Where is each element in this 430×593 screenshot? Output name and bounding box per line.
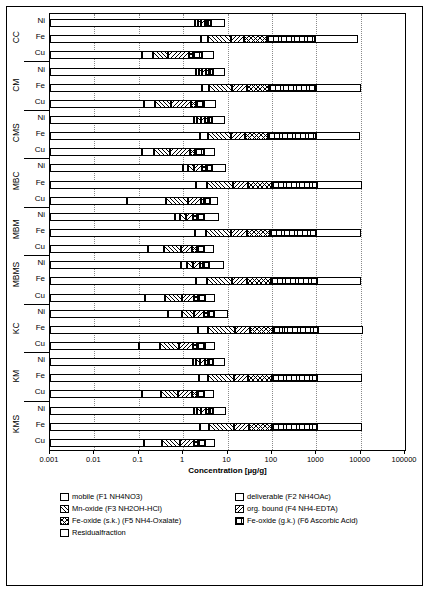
legend-row: Residualfraction: [60, 528, 380, 537]
bar-segment: [50, 51, 142, 59]
bar-segment: [269, 84, 316, 92]
bar-segment: [317, 423, 361, 431]
bar-segment: [207, 277, 233, 285]
bar-segment: [317, 374, 361, 382]
bar-segment: [214, 310, 228, 318]
bar-segment: [160, 342, 179, 350]
category-label: Ni: [37, 65, 45, 74]
bar-segment: [164, 245, 180, 253]
bar-segment: [50, 35, 201, 43]
legend-swatch-fesk: [60, 517, 69, 525]
bar-segment: [317, 181, 361, 189]
bar-segment: [316, 229, 361, 237]
category-label: Ni: [37, 307, 45, 316]
bar-segment: [144, 100, 155, 108]
legend-item: Mn-oxide (F3 NH2OH-HCl): [60, 504, 235, 513]
bar-segment: [50, 261, 181, 269]
bar-segment: [50, 213, 175, 221]
category-label: Fe: [36, 420, 45, 429]
bar-segment: [50, 310, 168, 318]
bar-segment: [209, 423, 234, 431]
x-tick: [182, 451, 183, 454]
bar-segment: [197, 213, 204, 221]
bar-segment: [273, 326, 318, 334]
bar-segment: [188, 197, 201, 205]
x-tick: [271, 451, 272, 454]
group-label: MBM: [8, 207, 24, 255]
group-separator: [24, 255, 49, 256]
bar-segment: [193, 51, 202, 59]
bar-segment: [198, 439, 205, 447]
bar-segment: [204, 100, 216, 108]
grid-line: [405, 14, 406, 450]
bar-segment: [210, 197, 218, 205]
bar-segment: [50, 229, 195, 237]
category-label: Ni: [37, 355, 45, 364]
bar-segment: [181, 245, 192, 253]
category-label: Cu: [35, 436, 45, 445]
legend-swatch-org: [235, 505, 244, 513]
bar-segment: [202, 51, 213, 59]
bar-segment: [194, 164, 201, 172]
category-label: Fe: [36, 274, 45, 283]
group-label-column: CCCMCMSMBCMBMMBMSKCKMKMS: [8, 13, 24, 451]
group-separator: [24, 352, 49, 353]
legend-item: Residualfraction: [60, 528, 235, 537]
group-label: CM: [8, 61, 24, 109]
bar-segment: [212, 116, 225, 124]
category-label: Cu: [35, 194, 45, 203]
bar-segment: [231, 229, 246, 237]
legend-swatch-resid: [60, 529, 69, 537]
category-label: Cu: [35, 48, 45, 57]
bar-segment: [208, 326, 235, 334]
bar-segment: [50, 245, 148, 253]
x-tick-label: 0.001: [40, 455, 59, 464]
category-label: Fe: [36, 178, 45, 187]
bar-segment: [170, 148, 191, 156]
bar-segment: [166, 197, 189, 205]
bar-segment: [178, 390, 192, 398]
grid-line: [361, 14, 362, 450]
bar-segment: [50, 439, 144, 447]
bar-segment: [127, 197, 165, 205]
group-separator: [24, 158, 49, 159]
group-separator: [24, 304, 49, 305]
legend-swatch-fegk: [235, 517, 244, 525]
x-tick-label: 100: [265, 455, 278, 464]
bar-segment: [205, 439, 215, 447]
bar-segment: [247, 277, 271, 285]
bar-segment: [186, 213, 193, 221]
category-label: Fe: [36, 81, 45, 90]
category-label: Cu: [35, 339, 45, 348]
bar-segment: [316, 132, 360, 140]
legend-label: Fe-oxide (s.k.) (F5 NH4-Oxalate): [72, 516, 181, 525]
bar-segment: [50, 277, 196, 285]
bar-segment: [196, 277, 206, 285]
bar-segment: [205, 342, 215, 350]
legend-item: Fe-oxide (g.k.) (F6 Ascorbic Acid): [235, 516, 358, 525]
bar-segment: [161, 390, 178, 398]
category-label: Fe: [36, 323, 45, 332]
bar-segment: [268, 132, 315, 140]
bar-segment: [209, 261, 224, 269]
x-tick: [93, 451, 94, 454]
bar-segment: [196, 181, 207, 189]
bar-segment: [211, 19, 225, 27]
bar-segment: [50, 407, 194, 415]
bar-segment: [199, 374, 208, 382]
category-label: Cu: [35, 291, 45, 300]
category-label: Cu: [35, 387, 45, 396]
legend-label: Fe-oxide (g.k.) (F6 Ascorbic Acid): [247, 516, 358, 525]
plot-area: [49, 13, 406, 451]
bar-segment: [208, 374, 233, 382]
bar-segment: [196, 100, 205, 108]
bar-segment: [205, 294, 215, 302]
group-label: KM: [8, 352, 24, 400]
bar-segment: [50, 374, 199, 382]
bar-segment: [198, 326, 208, 334]
bar-segment: [142, 51, 153, 59]
bar-segment: [50, 68, 196, 76]
x-tick: [404, 451, 405, 454]
bar-segment: [234, 423, 249, 431]
category-label: Fe: [36, 32, 45, 41]
